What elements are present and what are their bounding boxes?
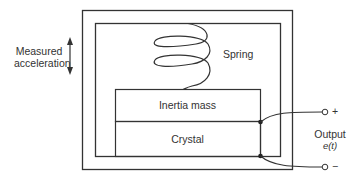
measured-line2: acceleration (14, 57, 64, 69)
measured-line1: Measured (14, 45, 64, 57)
terminal-minus-icon (322, 164, 328, 170)
spring-label: Spring (223, 48, 253, 60)
output-text: Output (305, 128, 355, 140)
output-label: Output e(t) (305, 128, 355, 152)
output-signal-text: e(t) (305, 140, 355, 152)
inertia-mass-label: Inertia mass (115, 99, 260, 111)
crystal-label: Crystal (115, 133, 260, 145)
measured-acceleration-label: Measured acceleration (14, 45, 64, 69)
terminal-minus-label: − (332, 160, 338, 172)
terminal-plus-label: + (332, 105, 338, 117)
double-arrow-icon (67, 37, 73, 75)
spring-coil (154, 24, 210, 90)
terminal-plus-icon (322, 109, 328, 115)
